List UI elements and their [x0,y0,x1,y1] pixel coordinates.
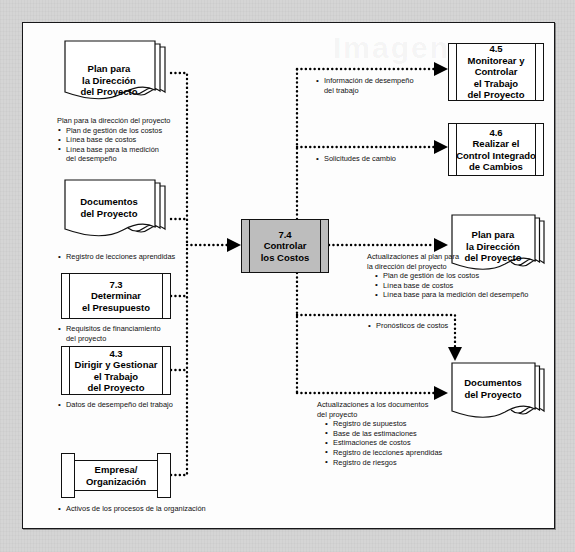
annotation-item: Información de desempeño del trabajo [315,76,445,95]
node-label: Documentos del Proyecto [452,377,534,400]
annotation-item: Base de las estimaciones [324,429,507,439]
annotation-plan-direccion: Plan para la dirección del proyecto Plan… [57,116,197,164]
node-label: 4.6 Realizar el Control Integrado de Cam… [456,127,536,173]
annotation-actualizaciones-documentos: Actualizaciones a los documentos del pro… [317,400,507,467]
annotation-item: Línea base para la medición del desempeñ… [57,145,197,164]
arrowhead-into-process [227,238,241,252]
annotation-header: Plan para la dirección del proyecto [57,116,197,126]
organization-cap-right [157,453,171,498]
annotation-list: Plan de gestión de los costos Línea base… [57,126,197,164]
annotation-list: Solicitudes de cambio [315,154,445,164]
annotation-list: Información de desempeño del trabajo [315,76,445,95]
arrowhead-plan-out [434,238,448,252]
annotation-item: Pronósticos de costos [367,321,517,331]
diagram-panel: Imagen [22,22,555,529]
arrowhead-documentos-out [434,386,448,400]
node-label: Documentos del Proyecto [65,196,153,219]
organization-body: Empresa/ Organización [71,460,161,491]
annotation-pronosticos-costos: Pronósticos de costos [367,321,517,331]
annotation-empresa-organizacion: Activos de los procesos de la organizaci… [57,504,297,514]
node-label: 4.5 Monitorear y Controlar el Trabajo de… [467,43,524,101]
annotation-dirigir-gestionar: Datos de desempeño del trabajo [57,400,217,410]
annotation-list: Datos de desempeño del trabajo [57,400,217,410]
node-monitorear-controlar-trabajo[interactable]: 4.5 Monitorear y Controlar el Trabajo de… [448,43,544,101]
annotation-list: Activos de los procesos de la organizaci… [57,504,297,514]
connector-empresa-organizacion [171,245,187,475]
diagram-canvas: Imagen [0,0,575,552]
connector-pronosticos-costos [297,315,455,347]
node-plan-direccion-proyecto[interactable]: Plan para la Dirección del Proyecto [61,39,171,111]
node-empresa-organizacion[interactable]: Empresa/ Organización [61,453,171,498]
annotation-item: Línea base de costos [57,135,197,145]
annotation-list: Registro de lecciones aprendidas [57,252,207,262]
node-determinar-presupuesto[interactable]: 7.3 Determinar el Presupuesto [61,273,171,319]
organization-cap-left [61,453,75,498]
node-control-integrado-cambios[interactable]: 4.6 Realizar el Control Integrado de Cam… [448,123,544,176]
annotation-list: Registro de supuestos Base de las estima… [317,419,507,467]
annotation-item: Línea base para la medición del desempeñ… [374,290,549,300]
node-controlar-los-costos[interactable]: 7.4 Controlar los Costos [241,219,329,273]
arrowhead-pronosticos [448,347,462,361]
node-label: Empresa/ Organización [86,464,146,487]
annotation-list: Requisitos de financiamiento del proyect… [57,324,207,343]
node-label: 7.4 Controlar los Costos [261,229,310,264]
annotation-determinar-presupuesto: Requisitos de financiamiento del proyect… [57,324,207,343]
annotation-list: Plan de gestión de los costos Línea base… [367,271,549,300]
annotation-item: Activos de los procesos de la organizaci… [57,504,297,514]
watermark-text: Imagen [333,31,450,65]
node-label: Plan para la Dirección del Proyecto [65,63,153,98]
annotation-item: Registro de lecciones aprendidas [57,252,207,262]
arrowhead-cambios [434,140,448,154]
node-dirigir-gestionar-trabajo[interactable]: 4.3 Dirigir y Gestionar el Trabajo del P… [61,346,171,395]
annotation-item: Registro de riesgos [324,458,507,468]
annotation-solicitudes-cambio: Solicitudes de cambio [315,154,445,164]
annotation-item: Plan de gestión de los costos [374,271,549,281]
annotation-header: Actualizaciones a los documentos del pro… [317,400,507,419]
node-label: 4.3 Dirigir y Gestionar el Trabajo del P… [75,348,158,394]
annotation-item: Línea base de costos [374,281,549,291]
annotation-item: Registro de lecciones aprendidas [324,448,507,458]
annotation-informacion-desempeno: Información de desempeño del trabajo [315,76,445,95]
annotation-documentos-in: Registro de lecciones aprendidas [57,252,207,262]
node-label: 7.3 Determinar el Presupuesto [82,279,150,314]
annotation-item: Registro de supuestos [324,419,507,429]
annotation-item: Datos de desempeño del trabajo [57,400,217,410]
annotation-item: Requisitos de financiamiento del proyect… [57,324,207,343]
annotation-list: Pronósticos de costos [367,321,517,331]
node-documentos-proyecto-in[interactable]: Documentos del Proyecto [61,178,171,248]
node-label: Plan para la Dirección del Proyecto [452,229,534,264]
annotation-item: Solicitudes de cambio [315,154,445,164]
annotation-item: Plan de gestión de los costos [57,126,197,136]
arrowhead-monitorear [434,62,448,76]
annotation-item: Estimaciones de costos [324,438,507,448]
